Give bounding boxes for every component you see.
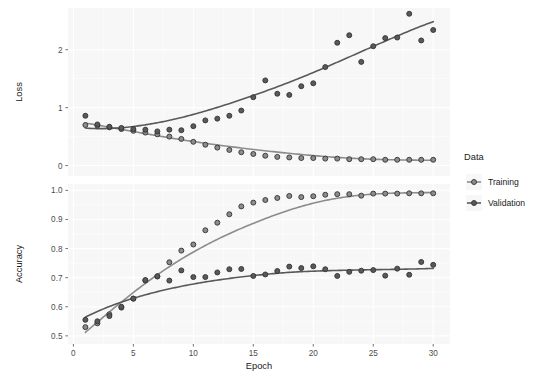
tick-label-x: 15 bbox=[249, 349, 259, 358]
data-point bbox=[275, 268, 280, 273]
tick-label-y: 0.8 bbox=[51, 245, 63, 254]
legend-key-point bbox=[472, 201, 477, 206]
legend-item-label: Training bbox=[488, 177, 519, 187]
data-point bbox=[407, 11, 412, 16]
data-point bbox=[167, 278, 172, 283]
data-point bbox=[299, 195, 304, 200]
data-point bbox=[167, 260, 172, 265]
legend-title: Data bbox=[464, 152, 484, 162]
data-point bbox=[395, 266, 400, 271]
data-point bbox=[335, 40, 340, 45]
data-point bbox=[359, 157, 364, 162]
data-point bbox=[143, 127, 148, 132]
data-point bbox=[311, 81, 316, 86]
tick-label-x: 20 bbox=[309, 349, 319, 358]
axis-title-x: Epoch bbox=[246, 361, 272, 371]
data-point bbox=[215, 220, 220, 225]
legend-item-training[interactable]: Training bbox=[466, 174, 519, 190]
data-point bbox=[107, 124, 112, 129]
data-point bbox=[227, 113, 232, 118]
data-point bbox=[263, 272, 268, 277]
data-point bbox=[323, 192, 328, 197]
panel-background-accuracy bbox=[68, 184, 450, 344]
data-point bbox=[191, 242, 196, 247]
tick-label-x: 5 bbox=[131, 349, 136, 358]
data-point bbox=[359, 59, 364, 64]
data-point bbox=[203, 142, 208, 147]
data-point bbox=[383, 273, 388, 278]
data-point bbox=[311, 156, 316, 161]
data-point bbox=[287, 155, 292, 160]
data-point bbox=[419, 157, 424, 162]
data-point bbox=[407, 191, 412, 196]
data-point bbox=[335, 156, 340, 161]
legend: DataTrainingValidation bbox=[464, 152, 525, 211]
legend-item-validation[interactable]: Validation bbox=[466, 195, 525, 211]
chart-root: 012Loss0.50.60.70.80.91.0051015202530Acc… bbox=[0, 0, 550, 388]
data-point bbox=[83, 317, 88, 322]
tick-label-x: 10 bbox=[189, 349, 199, 358]
data-point bbox=[251, 273, 256, 278]
data-point bbox=[191, 139, 196, 144]
data-point bbox=[119, 125, 124, 130]
training-metrics-chart: 012Loss0.50.60.70.80.91.0051015202530Acc… bbox=[0, 0, 550, 388]
data-point bbox=[359, 193, 364, 198]
tick-label-y: 1 bbox=[58, 104, 63, 113]
data-point bbox=[347, 157, 352, 162]
data-point bbox=[143, 278, 148, 283]
facet-accuracy: 0.50.60.70.80.91.0051015202530Accuracy bbox=[14, 184, 450, 358]
data-point bbox=[95, 319, 100, 324]
data-point bbox=[299, 266, 304, 271]
data-point bbox=[179, 136, 184, 141]
data-point bbox=[191, 124, 196, 129]
data-point bbox=[239, 204, 244, 209]
data-point bbox=[215, 145, 220, 150]
data-point bbox=[347, 33, 352, 38]
data-point bbox=[371, 44, 376, 49]
data-point bbox=[287, 92, 292, 97]
data-point bbox=[275, 91, 280, 96]
data-point bbox=[83, 123, 88, 128]
legend-item-label: Validation bbox=[488, 198, 525, 208]
tick-label-y: 2 bbox=[58, 46, 63, 55]
data-point bbox=[371, 191, 376, 196]
data-point bbox=[347, 192, 352, 197]
legend-key-point bbox=[472, 180, 477, 185]
tick-label-y: 0 bbox=[58, 162, 63, 171]
data-point bbox=[203, 275, 208, 280]
data-point bbox=[251, 151, 256, 156]
data-point bbox=[167, 134, 172, 139]
data-point bbox=[395, 35, 400, 40]
data-point bbox=[287, 264, 292, 269]
data-point bbox=[395, 191, 400, 196]
data-point bbox=[119, 304, 124, 309]
data-point bbox=[155, 129, 160, 134]
data-point bbox=[251, 200, 256, 205]
axis-title-accuracy: Accuracy bbox=[14, 245, 24, 284]
tick-label-y: 0.7 bbox=[51, 274, 63, 283]
tick-label-y: 1.0 bbox=[51, 186, 63, 195]
data-point bbox=[107, 314, 112, 319]
data-point bbox=[263, 78, 268, 83]
tick-label-x: 0 bbox=[71, 349, 76, 358]
data-point bbox=[239, 150, 244, 155]
data-point bbox=[263, 198, 268, 203]
data-point bbox=[419, 259, 424, 264]
data-point bbox=[179, 268, 184, 273]
data-point bbox=[383, 36, 388, 41]
tick-label-x: 25 bbox=[369, 349, 379, 358]
tick-label-x: 30 bbox=[429, 349, 439, 358]
data-point bbox=[431, 191, 436, 196]
data-point bbox=[335, 192, 340, 197]
data-point bbox=[371, 157, 376, 162]
data-point bbox=[287, 193, 292, 198]
tick-label-y: 0.6 bbox=[51, 303, 63, 312]
data-point bbox=[83, 113, 88, 118]
data-point bbox=[155, 274, 160, 279]
facet-loss: 012Loss bbox=[14, 8, 450, 176]
data-point bbox=[431, 262, 436, 267]
data-point bbox=[239, 108, 244, 113]
data-point bbox=[215, 270, 220, 275]
data-point bbox=[263, 153, 268, 158]
data-point bbox=[419, 191, 424, 196]
